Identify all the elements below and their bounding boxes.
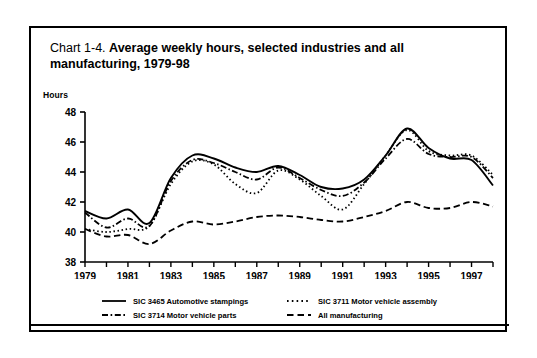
x-tick-label: 1993 [375,271,398,279]
legend-item-all-manufacturing: All manufacturing [286,310,486,320]
y-tick-label: 48 [65,107,77,118]
series-line [85,139,493,228]
legend-item-motor-vehicle-parts: SIC 3714 Motor vehicle parts [101,310,286,320]
y-tick-label: 40 [65,227,77,238]
legend-label: SIC 3714 Motor vehicle parts [133,311,236,320]
x-tick-label: 1981 [117,271,140,279]
line-chart: 484644424038 197919811983198519871989199… [43,104,495,279]
legend-label: SIC 3465 Automotive stampings [133,297,248,306]
solid-line-swatch [101,296,127,306]
legend-label: All manufacturing [318,311,383,320]
legend-row: SIC 3714 Motor vehicle parts All manufac… [101,308,501,322]
y-tick-label: 44 [65,167,77,178]
legend-item-automotive-stampings: SIC 3465 Automotive stampings [101,296,286,306]
dotted-line-swatch [286,296,312,306]
plot-area: 484644424038 197919811983198519871989199… [43,104,495,279]
x-tick-label: 1983 [160,271,183,279]
x-tick-label: 1991 [332,271,355,279]
y-axis-title: Hours [43,90,68,100]
x-tick-label: 1985 [203,271,226,279]
series-group [85,128,493,244]
x-tick-label: 1997 [460,271,483,279]
x-tick-label: 1989 [289,271,312,279]
legend-label: SIC 3711 Motor vehicle assembly [318,297,437,306]
y-tick-label: 38 [65,257,77,268]
chart-card: Chart 1-4. Average weekly hours, selecte… [29,26,507,332]
series-line [85,128,493,224]
legend-row: SIC 3465 Automotive stampings SIC 3711 M… [101,294,501,308]
axis-group [80,112,493,267]
dashdot-line-swatch [101,310,127,320]
x-tick-label: 1979 [74,271,97,279]
page-title: Chart 1-4. Average weekly hours, selecte… [50,40,480,72]
y-tick-label: 46 [65,137,77,148]
legend-divider [31,324,509,326]
y-tick-labels: 484644424038 [65,107,77,268]
legend: SIC 3465 Automotive stampings SIC 3711 M… [101,294,501,322]
x-tick-label: 1987 [246,271,269,279]
y-tick-label: 42 [65,197,77,208]
x-tick-labels: 1979198119831985198719891991199319951997 [74,271,483,279]
x-tick-label: 1995 [417,271,440,279]
legend-item-motor-vehicle-assembly: SIC 3711 Motor vehicle assembly [286,296,486,306]
dashed-line-swatch [286,310,312,320]
chart-number: Chart 1-4. [50,41,106,55]
